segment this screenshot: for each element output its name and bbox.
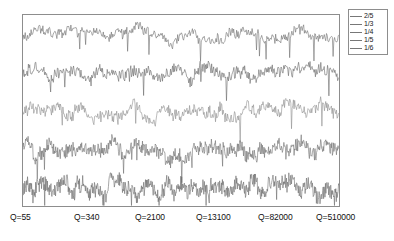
legend-line-swatch-icon [350, 24, 362, 25]
legend-item[interactable]: 1/5 [350, 36, 385, 44]
x-tick-label: Q=2100 [135, 211, 165, 223]
legend-line-swatch-icon [350, 48, 362, 49]
legend-item-label: 1/4 [364, 28, 373, 36]
x-tick-label: Q=340 [74, 211, 99, 223]
legend-line-swatch-icon [350, 16, 362, 17]
x-axis-tick-labels: Q=55 Q=340 Q=2100 Q=13100 Q=82000 Q=5100… [0, 211, 394, 227]
x-tick-label: Q=82000 [258, 211, 293, 223]
trace-1-4 [23, 97, 339, 143]
x-tick-label: Q=510000 [316, 211, 355, 223]
legend-line-swatch-icon [350, 32, 362, 33]
legend-item[interactable]: 1/6 [350, 44, 385, 52]
plot-area [22, 14, 340, 207]
legend: 2/5 1/3 1/4 1/5 1/6 [348, 9, 388, 55]
x-tick-label: Q=13100 [196, 211, 231, 223]
trace-1-6 [23, 172, 339, 205]
legend-item[interactable]: 2/5 [350, 12, 385, 20]
legend-item[interactable]: 1/3 [350, 20, 385, 28]
legend-item-label: 1/3 [364, 20, 373, 28]
trace-2-5 [23, 22, 339, 61]
trace-1-3 [23, 61, 339, 101]
legend-line-swatch-icon [350, 40, 362, 41]
legend-item[interactable]: 1/4 [350, 28, 385, 36]
chart-figure: 2/5 1/3 1/4 1/5 1/6 Q=55 Q=340 Q=2100 Q=… [0, 0, 394, 241]
traces-group [23, 15, 339, 206]
legend-item-label: 1/5 [364, 36, 373, 44]
legend-item-label: 1/6 [364, 44, 373, 52]
legend-item-label: 2/5 [364, 12, 373, 20]
x-tick-label: Q=55 [10, 211, 31, 223]
trace-1-5 [23, 134, 339, 182]
